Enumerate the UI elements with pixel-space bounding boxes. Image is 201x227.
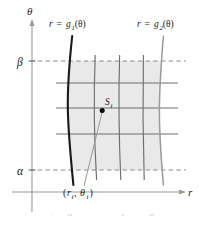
caption-partial-text: Mathematics, diagram detail — polar regi… bbox=[6, 214, 196, 216]
sample-point-theta-index: i bbox=[86, 193, 88, 200]
curve-g1-label-fn: g bbox=[66, 19, 71, 29]
cell-label-index: i bbox=[111, 102, 113, 109]
sample-point-comma: , bbox=[74, 187, 77, 198]
curve-g1-label-equals: = bbox=[57, 19, 62, 29]
r-axis-label: r bbox=[188, 186, 193, 198]
curve-g1-label-r: r bbox=[49, 19, 53, 29]
shaded-region bbox=[68, 61, 163, 170]
alpha-tick-label: α bbox=[17, 165, 24, 177]
curve-g2-label: r = g 2 (θ) bbox=[137, 19, 174, 31]
cell-label-base: S bbox=[105, 97, 110, 107]
sample-point-r: r bbox=[67, 187, 71, 198]
curve-g1-label-arg: (θ) bbox=[75, 19, 86, 30]
sample-point-label: ( r i , θ i ) bbox=[63, 187, 93, 200]
beta-tick-label: β bbox=[16, 56, 23, 69]
curve-g2-label-equals: = bbox=[145, 19, 150, 29]
curve-g2-label-fn: g bbox=[154, 19, 159, 29]
figure-canvas: θ r β α r = g 1 (θ) r = g 2 (θ) S i bbox=[0, 0, 201, 227]
sample-point-close-paren: ) bbox=[89, 187, 92, 199]
curve-g2-label-arg: (θ) bbox=[163, 19, 174, 30]
curve-g1-label: r = g 1 (θ) bbox=[49, 19, 86, 31]
polar-region-figure: θ r β α r = g 1 (θ) r = g 2 (θ) S i bbox=[0, 0, 201, 227]
theta-axis-arrow-icon bbox=[29, 19, 34, 26]
curve-g2-label-r: r bbox=[137, 19, 141, 29]
r-axis-arrow-icon bbox=[179, 189, 186, 194]
sample-point-theta: θ bbox=[80, 187, 85, 198]
caption-strip: Mathematics, diagram detail — polar regi… bbox=[0, 214, 201, 227]
sample-point-marker bbox=[100, 108, 105, 113]
theta-axis-label: θ bbox=[27, 5, 33, 17]
